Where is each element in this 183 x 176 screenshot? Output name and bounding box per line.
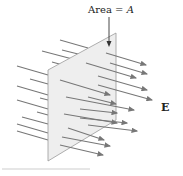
flux-diagram: [0, 0, 183, 176]
area-plane: [48, 33, 116, 161]
area-label-text: Area =: [88, 4, 127, 15]
footer-divider: [2, 168, 90, 170]
area-label: Area = A: [88, 4, 134, 15]
area-variable: A: [127, 4, 134, 15]
electric-field-label: E: [161, 101, 169, 114]
